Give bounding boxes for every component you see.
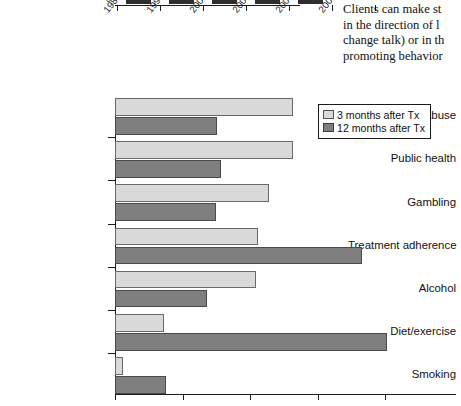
chart-legend: 3 months after Tx12 months after Tx (318, 104, 431, 139)
category-label-gambling: Gambling (348, 196, 456, 208)
bar-treatment-adherence-s1 (115, 247, 362, 265)
category-label-public-health: Public health (348, 152, 456, 164)
y-axis-tick (108, 310, 115, 311)
category-label-treatment-adherence: Treatment adherence (348, 239, 456, 251)
bar-gambling-s1 (115, 203, 216, 221)
y-axis-tick (108, 224, 115, 225)
upper-chart-tick (289, 5, 290, 11)
bar-treatment-adherence-s0 (115, 228, 258, 246)
x-axis-tick (385, 394, 386, 400)
category-label-smoking: Smoking (348, 368, 456, 380)
body-text-column: Clients can make stin the direction of l… (343, 2, 461, 64)
y-axis-tick (108, 353, 115, 354)
category-label-alcohol: Alcohol (348, 282, 456, 294)
bar-alcohol-s1 (115, 290, 207, 308)
x-axis-tick (115, 394, 116, 400)
y-axis-tick (108, 267, 115, 268)
legend-item: 12 months after Tx (323, 121, 425, 134)
bar-chart: Drug abusePublic healthGamblingTreatment… (0, 92, 456, 406)
y-axis-tick (108, 137, 115, 138)
upper-chart-tick (117, 5, 118, 11)
upper-chart-tick (203, 5, 204, 11)
bar-smoking-s0 (115, 357, 123, 375)
bar-alcohol-s0 (115, 271, 256, 289)
body-text-line: Clients can make st (343, 2, 461, 18)
x-axis-tick (183, 394, 184, 400)
legend-label: 3 months after Tx (337, 109, 419, 121)
x-axis-tick (318, 394, 319, 400)
bar-smoking-s1 (115, 376, 166, 394)
bar-drug-abuse-s1 (115, 117, 217, 135)
upper-chart-tick (160, 5, 161, 11)
x-axis-tick (250, 394, 251, 400)
upper-chart-axis-line (115, 5, 300, 6)
bar-gambling-s0 (115, 184, 269, 202)
upper-chart-tick (246, 5, 247, 11)
legend-item: 3 months after Tx (323, 108, 425, 121)
bar-diet-exercise-s1 (115, 333, 387, 351)
upper-chart-tick (332, 5, 333, 11)
legend-swatch-dark (323, 123, 334, 132)
body-text-line: change talk) or in th (343, 33, 461, 49)
legend-label: 12 months after Tx (337, 122, 425, 134)
y-axis-tick (108, 180, 115, 181)
legend-swatch-light (323, 110, 334, 119)
x-axis-line (115, 394, 456, 395)
body-text-line: promoting behavior (343, 49, 461, 65)
bar-public-health-s1 (115, 160, 221, 178)
upper-chart-crop: 0 1988–19941995–19992000–20022003–200620… (0, 0, 300, 92)
bar-diet-exercise-s0 (115, 314, 164, 332)
body-text-line: in the direction of l (343, 18, 461, 34)
bar-drug-abuse-s0 (115, 98, 293, 116)
bar-public-health-s0 (115, 141, 293, 159)
